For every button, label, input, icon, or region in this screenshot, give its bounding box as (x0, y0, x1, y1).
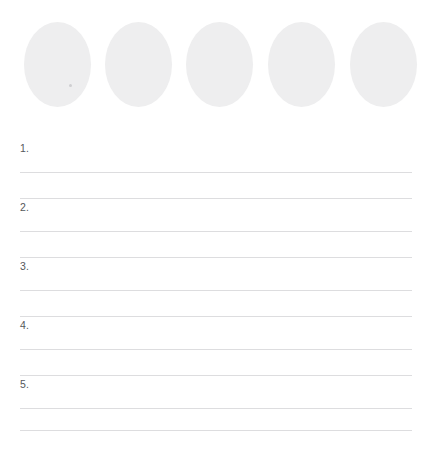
list-item: 2. (0, 189, 431, 248)
oval-shape-2[interactable] (105, 22, 172, 107)
oval-row (0, 0, 431, 122)
numbered-list: 1. 2. 3. 4. 5. (0, 130, 431, 425)
list-item: 4. (0, 307, 431, 366)
oval-shape-3[interactable] (186, 22, 253, 107)
worksheet-page: 1. 2. 3. 4. 5. (0, 0, 431, 454)
list-item-number: 2. (20, 201, 29, 213)
oval-shape-4[interactable] (268, 22, 335, 107)
writing-rule[interactable] (20, 408, 412, 409)
list-item-number: 5. (20, 378, 29, 390)
speck-artifact (69, 84, 72, 87)
list-item: 3. (0, 248, 431, 307)
list-item-number: 3. (20, 260, 29, 272)
oval-shape-5[interactable] (350, 22, 417, 107)
writing-rule[interactable] (20, 231, 412, 232)
list-item-number: 4. (20, 319, 29, 331)
list-item: 5. (0, 366, 431, 425)
writing-rule[interactable] (20, 172, 412, 173)
list-item-number: 1. (20, 142, 29, 154)
writing-rule[interactable] (20, 349, 412, 350)
writing-rule[interactable] (20, 290, 412, 291)
writing-rule[interactable] (20, 430, 412, 431)
list-item: 1. (0, 130, 431, 189)
oval-shape-1[interactable] (24, 22, 91, 107)
